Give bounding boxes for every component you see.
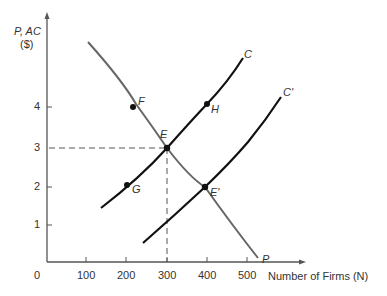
- point-h: [204, 101, 210, 107]
- point-label-f: F: [138, 95, 145, 107]
- x-axis-arrow-icon: [299, 260, 306, 265]
- x-tick-500: 500: [238, 269, 256, 281]
- y-tick-4: 4: [34, 100, 40, 112]
- point-e: [164, 145, 170, 151]
- x-tick-300: 300: [158, 269, 176, 281]
- y-tick-1: 1: [34, 218, 40, 230]
- curve-label-c-prime: C': [283, 86, 293, 98]
- x-tick-200: 200: [117, 269, 135, 281]
- y-axis-label: P, AC: [14, 25, 41, 37]
- curve-label-p: P: [262, 253, 269, 265]
- point-label-e: E: [160, 128, 167, 140]
- point-label-h: H: [211, 103, 219, 115]
- y-axis-arrow-icon: [45, 12, 50, 19]
- x-axis-label: Number of Firms (N): [268, 270, 368, 282]
- origin-label: 0: [34, 269, 40, 281]
- x-tick-400: 400: [198, 269, 216, 281]
- point-e-prime: [202, 184, 208, 190]
- x-tick-100: 100: [77, 269, 95, 281]
- y-tick-2: 2: [34, 180, 40, 192]
- diagram-canvas: [0, 0, 387, 296]
- point-f: [130, 104, 136, 110]
- curve-label-c: C: [244, 48, 252, 60]
- curve-c-prime: [143, 97, 281, 243]
- y-tick-3: 3: [34, 141, 40, 153]
- y-axis-unit: ($): [20, 38, 33, 50]
- point-label-e-prime: E': [210, 186, 219, 198]
- point-label-g: G: [132, 183, 141, 195]
- point-g: [124, 182, 130, 188]
- curve-c: [101, 58, 243, 208]
